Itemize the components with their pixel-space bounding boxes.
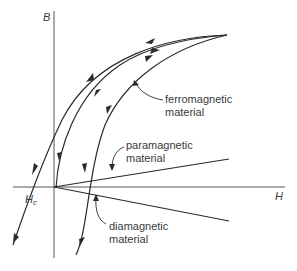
- b-axis-label: B: [43, 11, 50, 23]
- arrow-icon: [32, 163, 38, 175]
- paramagnetic-label-line1: paramagnetic: [126, 139, 193, 151]
- diamagnetic-label-line2: material: [109, 233, 148, 245]
- arrow-icon: [145, 55, 153, 62]
- coercivity-label: Hc: [25, 193, 37, 207]
- ferromagnetic-leader: [135, 82, 163, 100]
- arrow-icon: [79, 237, 85, 246]
- arrow-icon: [94, 89, 101, 97]
- arrow-icon: [145, 38, 155, 44]
- h-axis-label: H: [275, 190, 283, 202]
- ferromagnetic-label-line1: ferromagnetic: [165, 93, 233, 105]
- diamagnetic-line: [54, 187, 229, 221]
- paramagnetic-label-line2: material: [126, 152, 165, 164]
- leader-arrow-icon: [109, 164, 115, 171]
- diamagnetic-label-line1: diamagnetic: [109, 220, 169, 232]
- arrow-icon: [150, 48, 160, 54]
- bh-curve-diagram: B H Hc ferromagnetic material paramagnet…: [0, 0, 297, 271]
- ferromagnetic-descending-curve: [13, 35, 227, 245]
- arrow-icon: [82, 163, 87, 173]
- diamagnetic-leader: [96, 197, 106, 224]
- ferromagnetic-label-line2: material: [165, 106, 204, 118]
